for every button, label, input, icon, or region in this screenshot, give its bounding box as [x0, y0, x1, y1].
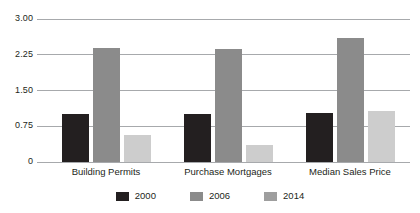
bar-chart: 00.751.502.253.00 Building PermitsPurcha… — [0, 0, 420, 213]
bars-group — [0, 0, 420, 170]
x-axis-category-labels: Building PermitsPurchase MortgagesMedian… — [0, 166, 420, 182]
bar-2014-2 — [246, 145, 273, 162]
bar-2006-2 — [215, 49, 242, 162]
x-axis-category-label: Purchase Mortgages — [158, 166, 298, 178]
legend-label: 2014 — [283, 191, 304, 201]
x-axis-category-label: Median Sales Price — [280, 166, 420, 178]
bar-2000-1 — [62, 114, 89, 162]
bar-2006-3 — [337, 38, 364, 162]
bar-2006-1 — [93, 48, 120, 162]
legend-label: 2000 — [135, 191, 156, 201]
bar-2000-3 — [306, 113, 333, 162]
legend-swatch-icon — [190, 192, 203, 201]
legend-label: 2006 — [209, 191, 230, 201]
legend-item-2014[interactable]: 2014 — [264, 191, 304, 201]
bar-2014-3 — [368, 111, 395, 162]
x-axis-category-label: Building Permits — [36, 166, 176, 178]
legend-swatch-icon — [264, 192, 277, 201]
legend-item-2006[interactable]: 2006 — [190, 191, 230, 201]
legend-swatch-icon — [116, 192, 129, 201]
chart-legend: 200020062014 — [0, 189, 420, 203]
bar-2000-2 — [184, 114, 211, 162]
bar-2014-1 — [124, 135, 151, 162]
legend-item-2000[interactable]: 2000 — [116, 191, 156, 201]
